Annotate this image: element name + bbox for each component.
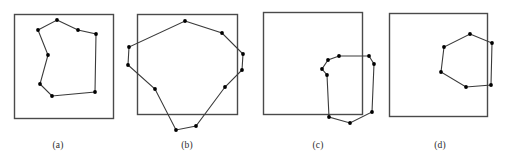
vertex-b-5 [194,124,198,128]
polygon-a [38,20,96,96]
vertex-b-0 [183,19,187,23]
vertex-b-8 [126,63,130,67]
polygon-c [322,56,374,123]
vertex-c-4 [348,121,352,125]
vertex-a-0 [55,18,59,22]
vertex-c-0 [337,54,341,58]
vertex-a-5 [38,82,42,86]
panel-d [390,14,494,117]
vertex-b-6 [174,128,178,132]
caption-b: (b) [167,140,207,150]
panels-group [15,13,494,132]
vertex-d-1 [490,41,494,45]
vertex-b-7 [153,87,157,91]
vertex-a-7 [36,28,40,32]
caption-d: (d) [420,140,460,150]
caption-a: (a) [38,140,78,150]
bounding-box-c [264,13,363,115]
vertex-b-3 [240,68,244,72]
polygon-d [441,34,492,87]
caption-c: (c) [298,140,338,150]
vertex-d-2 [489,83,493,87]
vertex-c-6 [325,73,329,77]
vertex-b-9 [127,45,131,49]
vertex-d-4 [439,70,443,74]
vertex-b-4 [223,85,227,89]
figure-container: (a) (b) (c) (d) [0,0,507,168]
vertex-c-1 [367,54,371,58]
vertex-b-1 [220,31,224,35]
vertex-a-1 [76,28,80,32]
vertex-a-6 [46,53,50,57]
vertex-c-8 [326,58,330,62]
bounding-box-d [390,14,488,117]
panel-a [15,15,114,119]
vertex-b-2 [241,52,245,56]
panel-c [264,13,376,125]
vertex-c-3 [370,110,374,114]
vertex-d-5 [442,45,446,49]
vertex-c-5 [327,115,331,119]
panel-b [126,15,245,132]
polygon-b [128,21,243,130]
bounding-box-a [15,15,114,119]
vertex-c-2 [372,62,376,66]
vertex-d-0 [468,32,472,36]
vertex-a-3 [93,90,97,94]
bounding-box-b [138,15,238,115]
vertex-d-3 [464,85,468,89]
vertex-c-7 [320,67,324,71]
vertex-a-4 [50,94,54,98]
vertex-a-2 [94,32,98,36]
